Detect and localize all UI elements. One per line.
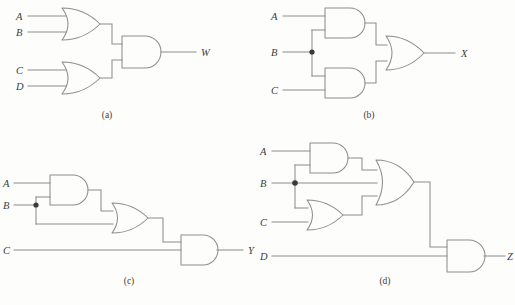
output-label-b-X: X [460, 48, 468, 59]
junction-dot-b-B [309, 49, 314, 54]
or-gate-out-b [386, 36, 424, 70]
wire-a-or2-to-and [100, 60, 122, 78]
and-gate-out-a [122, 36, 161, 68]
input-label-c-A: A [2, 178, 10, 189]
input-label-d-D: D [259, 251, 268, 262]
and-gate-out-c [181, 235, 218, 265]
input-label-a-B: B [16, 27, 23, 38]
wire-b-and1-to-or [365, 23, 387, 45]
input-label-c-C: C [3, 245, 11, 256]
input-label-a-A: A [15, 11, 23, 22]
wire-d-or-to-and [414, 182, 447, 247]
wire-a-or1-to-and [100, 24, 122, 44]
caption-d: (d) [379, 276, 390, 287]
input-label-d-B: B [260, 178, 267, 189]
output-label-d-Z: Z [507, 251, 513, 262]
junction-dot-d-B [292, 180, 298, 186]
circuit-a: A B C D W (a) [15, 8, 211, 121]
and-gate-ab-c [50, 175, 88, 205]
output-label-a-W: W [201, 47, 211, 58]
circuit-c: A B C Y (c) [2, 175, 255, 287]
wire-b-and2-to-or [365, 61, 387, 83]
junction-dot-c-B [33, 202, 38, 207]
or-gate-mid-c [112, 203, 148, 233]
output-label-c-Y: Y [248, 245, 255, 256]
caption-c: (c) [124, 276, 135, 287]
wire-c-and-to-or [88, 190, 113, 211]
or-gate-bc-d [307, 200, 343, 230]
and-gate-ab-b [325, 8, 365, 38]
logic-circuit-figure: A B C D W (a) [0, 0, 515, 305]
input-label-a-C: C [16, 65, 24, 76]
caption-b: (b) [363, 110, 374, 121]
and-gate-out-d [447, 240, 485, 272]
circuit-d: A B C D Z (d) [259, 143, 513, 287]
input-label-c-B: B [3, 200, 10, 211]
wire-d-and-to-or [348, 158, 377, 170]
input-label-b-A: A [270, 11, 278, 22]
wire-d-orbc-to-or [343, 196, 377, 215]
or-gate-mid-d [376, 160, 414, 205]
caption-a: (a) [102, 110, 113, 121]
input-label-a-D: D [15, 81, 24, 92]
and-gate-bc-b [325, 68, 365, 98]
input-label-d-C: C [260, 217, 268, 228]
or-gate-cd [62, 62, 100, 94]
input-label-d-A: A [259, 146, 267, 157]
wire-c-or-to-and [148, 218, 181, 242]
or-gate-ab [62, 8, 100, 40]
circuit-b: A B C X (b) [270, 8, 468, 121]
input-label-b-C: C [271, 85, 279, 96]
input-label-b-B: B [271, 47, 278, 58]
and-gate-ab-d [310, 143, 348, 173]
circuit-canvas: A B C D W (a) [0, 0, 515, 305]
